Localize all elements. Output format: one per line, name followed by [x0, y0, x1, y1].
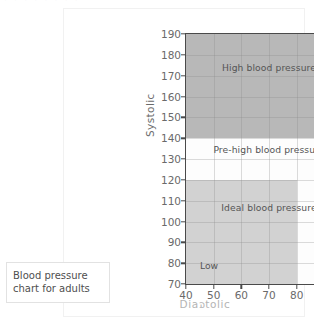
gridline-horizontal — [186, 222, 314, 223]
y-tick-label: 80 — [168, 258, 181, 269]
region-label-low-blood-pressure: Low — [200, 260, 218, 271]
y-tick-mark — [181, 33, 186, 34]
top-edge-bleed-text: · · · · · · · · — [0, 0, 314, 8]
y-tick-mark — [181, 221, 186, 222]
y-tick-mark — [181, 137, 186, 138]
y-tick-mark — [181, 75, 186, 76]
gridline-horizontal — [186, 180, 314, 181]
y-tick-mark — [181, 179, 186, 180]
y-tick-label: 150 — [161, 112, 181, 123]
y-tick-mark — [181, 158, 186, 159]
chart-caption: Blood pressure chart for adults — [6, 262, 110, 303]
region-high-blood-pressure — [186, 34, 314, 138]
region-label-high-blood-pressure: High blood pressure — [186, 62, 314, 74]
gridline-horizontal — [186, 55, 314, 56]
gridline-horizontal — [186, 76, 314, 77]
gridline-horizontal — [186, 242, 314, 243]
x-axis-title: Diaຉtolic — [121, 296, 289, 313]
gridline-horizontal — [186, 138, 314, 139]
y-tick-label: 140 — [161, 133, 181, 144]
y-tick-mark — [181, 200, 186, 201]
y-tick-label: 70 — [168, 279, 181, 290]
region-label-pre-high-blood-pressure: Pre-high blood pressure — [186, 144, 314, 156]
region-pre-high-blood-pressure-column — [297, 180, 314, 284]
plot-area: High blood pressure Pre-high blood press… — [185, 33, 314, 285]
gridline-horizontal — [186, 159, 314, 160]
y-tick-label: 190 — [161, 29, 181, 40]
y-tick-label: 90 — [168, 237, 181, 248]
region-label-ideal-blood-pressure: Ideal blood pressure — [186, 202, 314, 214]
y-axis-title: Systolic — [144, 93, 156, 137]
y-tick-mark — [181, 54, 186, 55]
gridline-horizontal — [186, 97, 314, 98]
y-tick-label: 180 — [161, 50, 181, 61]
gridline-horizontal — [186, 117, 314, 118]
y-tick-mark — [181, 262, 186, 263]
y-tick-label: 120 — [161, 175, 181, 186]
y-tick-mark — [181, 117, 186, 118]
x-tick-label: 80 — [290, 290, 303, 301]
y-tick-label: 100 — [161, 216, 181, 227]
y-tick-mark — [181, 96, 186, 97]
y-tick-label: 110 — [161, 195, 181, 206]
y-tick-mark — [181, 242, 186, 243]
y-tick-label: 160 — [161, 91, 181, 102]
y-tick-label: 170 — [161, 70, 181, 81]
y-tick-label: 130 — [161, 154, 181, 165]
top-edge-bleed-label: · · · · · · · · — [0, 0, 314, 5]
